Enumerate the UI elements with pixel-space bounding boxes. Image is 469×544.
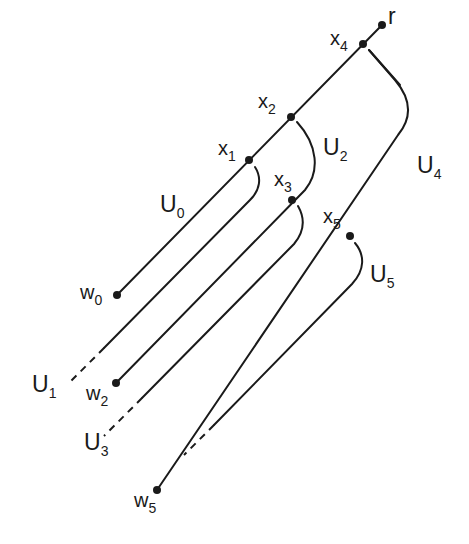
label-w0: w0 xyxy=(79,281,102,308)
node-w5 xyxy=(153,486,161,494)
label-U3: U3 xyxy=(84,429,109,459)
path-U5 xyxy=(214,243,362,425)
path-U1-dashed xyxy=(68,348,104,384)
node-w0 xyxy=(113,291,121,299)
path-U3 xyxy=(142,206,303,398)
diagram-canvas: r x4 x2 x1 x3 x5 w0 w2 w5 U0 U1 U2 U3 U4… xyxy=(0,0,469,544)
label-U1: U1 xyxy=(32,371,57,401)
node-x2 xyxy=(287,113,295,121)
label-U0: U0 xyxy=(160,191,185,221)
label-U2: U2 xyxy=(323,134,348,164)
label-U5: U5 xyxy=(370,261,395,291)
label-U4: U4 xyxy=(417,152,442,182)
label-w2: w2 xyxy=(85,382,108,409)
label-x1: x1 xyxy=(218,137,236,164)
label-x4: x4 xyxy=(330,27,348,54)
path-U1 xyxy=(104,167,259,348)
node-x5 xyxy=(346,232,354,240)
node-x1 xyxy=(245,156,253,164)
label-w5: w5 xyxy=(133,489,156,516)
label-r: r xyxy=(388,3,396,29)
label-x5: x5 xyxy=(323,205,341,232)
node-x3 xyxy=(288,196,296,204)
label-x3: x3 xyxy=(274,168,292,195)
path-U3-dashed xyxy=(104,398,142,436)
path-U4-fix xyxy=(369,50,400,85)
label-x2: x2 xyxy=(258,90,276,117)
node-r xyxy=(378,21,386,29)
node-w2 xyxy=(112,379,120,387)
node-x4 xyxy=(359,40,367,48)
